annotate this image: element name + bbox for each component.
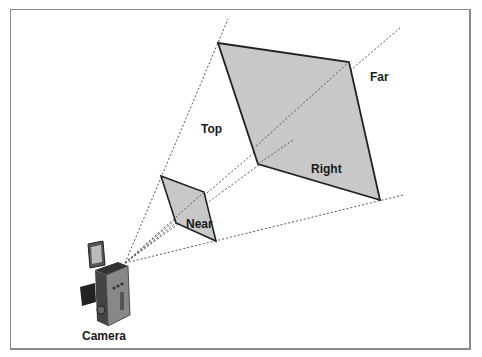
label-camera: Camera [82, 329, 126, 343]
camera-icon [80, 241, 130, 326]
label-right: Right [311, 162, 342, 176]
near-plane [161, 176, 216, 241]
label-near: Near [186, 217, 213, 231]
label-top: Top [201, 122, 222, 136]
label-far: Far [370, 70, 389, 84]
frustum-diagram [0, 0, 482, 357]
far-plane [218, 43, 380, 200]
